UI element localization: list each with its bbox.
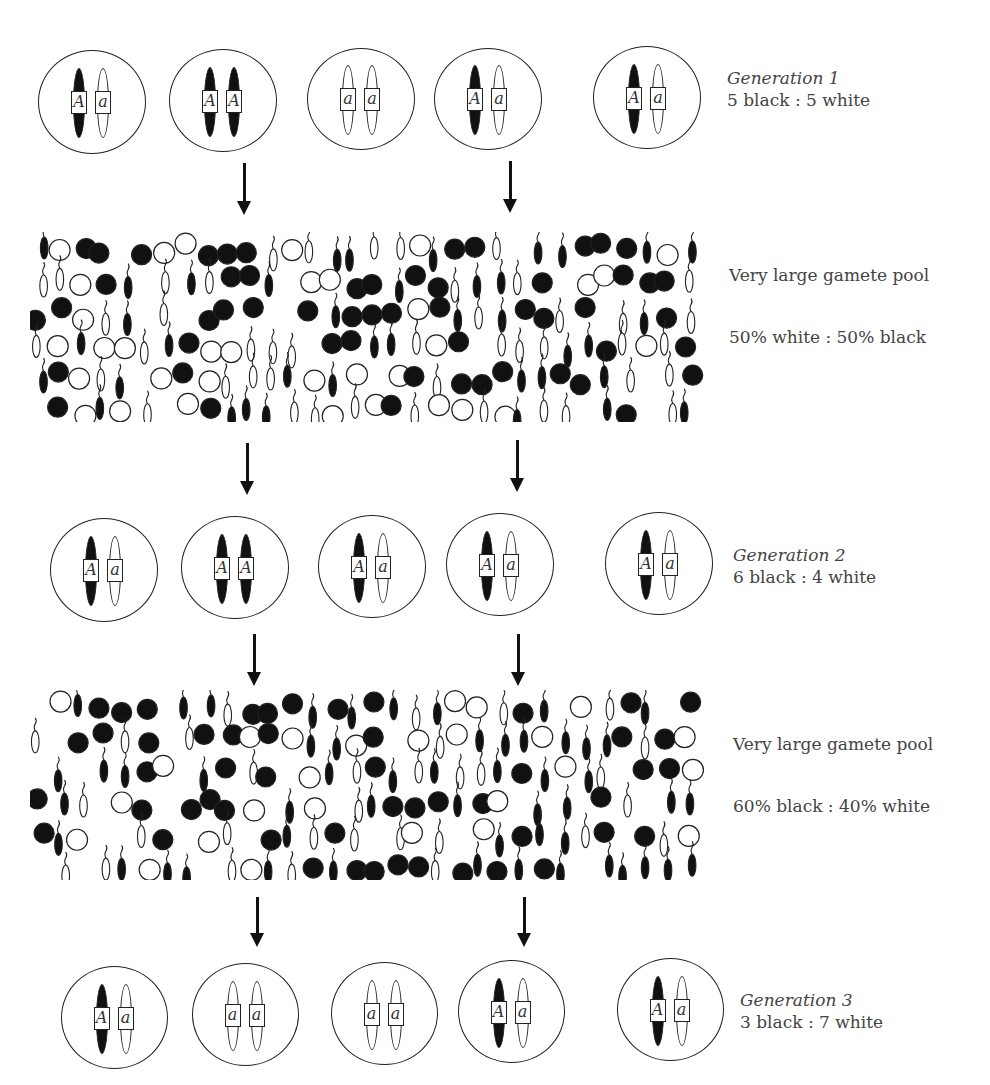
arrow-down-icon xyxy=(509,161,512,201)
allele-label: a xyxy=(95,91,111,114)
gen1-ratio: 5 black : 5 white xyxy=(727,89,870,111)
allele-label: A xyxy=(491,1001,507,1024)
allele-label: a xyxy=(375,556,391,579)
arrow-down-icon xyxy=(517,634,520,674)
gen1-cell-1: Aa xyxy=(38,50,146,154)
allele-label: a xyxy=(515,1001,531,1024)
arrow-down-icon xyxy=(256,897,259,935)
allele-label: a xyxy=(364,88,380,111)
allele-label: A xyxy=(479,554,495,577)
pool1-label: Very large gamete pool xyxy=(729,265,929,285)
gen2-cell-2: AA xyxy=(181,516,289,619)
gen3-cell-4: Aa xyxy=(458,960,565,1063)
allele-label: a xyxy=(340,88,356,111)
allele-label: a xyxy=(388,1003,404,1026)
gamete-pool-graphic xyxy=(30,690,720,880)
allele-label: A xyxy=(226,90,242,113)
arrow-down-icon xyxy=(246,443,249,483)
allele-label: a xyxy=(225,1004,241,1027)
allele-label: A xyxy=(83,559,99,582)
allele-label: A xyxy=(202,90,218,113)
allele-label: a xyxy=(364,1003,380,1026)
gamete-pool-graphic xyxy=(30,232,720,422)
gen2-ratio: 6 black : 4 white xyxy=(733,566,876,588)
gen2-cell-3: Aa xyxy=(318,515,426,618)
allele-label: A xyxy=(351,556,367,579)
arrow-down-icon xyxy=(516,440,519,480)
allele-label: a xyxy=(650,87,666,110)
gen2-cell-5: Aa xyxy=(605,512,713,615)
gen2-title: Generation 2 xyxy=(733,544,876,566)
allele-label: a xyxy=(249,1004,265,1027)
gen1-cell-2: AA xyxy=(169,49,277,152)
allele-label: a xyxy=(503,554,519,577)
gen3-cell-3: aa xyxy=(331,962,438,1065)
allele-label: A xyxy=(94,1007,110,1030)
arrow-down-icon xyxy=(523,897,526,935)
allele-label: A xyxy=(650,999,666,1022)
gen3-title: Generation 3 xyxy=(740,989,883,1011)
gen1-cell-3: aa xyxy=(307,48,415,150)
allele-label: a xyxy=(118,1007,134,1030)
arrow-down-icon xyxy=(243,163,246,203)
allele-label: A xyxy=(214,557,230,580)
gamete-pool-1 xyxy=(30,232,720,422)
gen1-cell-5: Aa xyxy=(593,46,701,149)
gen2-label: Generation 2 6 black : 4 white xyxy=(733,544,876,588)
pool1-ratio: 50% white : 50% black xyxy=(729,327,926,347)
allele-label: A xyxy=(238,557,254,580)
gen3-cell-5: Aa xyxy=(617,958,724,1061)
allele-label: a xyxy=(662,553,678,576)
gen1-label: Generation 1 5 black : 5 white xyxy=(727,67,870,111)
gen3-ratio: 3 black : 7 white xyxy=(740,1011,883,1033)
allele-label: a xyxy=(491,88,507,111)
allele-label: A xyxy=(626,87,642,110)
gen2-cell-1: Aa xyxy=(50,518,158,622)
pool2-label: Very large gamete pool xyxy=(733,734,933,754)
gamete-pool-2 xyxy=(30,690,720,880)
allele-label: A xyxy=(71,91,87,114)
gen3-cell-2: aa xyxy=(192,963,299,1066)
gen1-cell-4: Aa xyxy=(434,48,542,150)
gen2-cell-4: Aa xyxy=(446,513,554,616)
allele-label: A xyxy=(467,88,483,111)
allele-label: A xyxy=(638,553,654,576)
allele-label: a xyxy=(674,999,690,1022)
arrow-down-icon xyxy=(253,634,256,674)
gen3-label: Generation 3 3 black : 7 white xyxy=(740,989,883,1033)
allele-label: a xyxy=(107,559,123,582)
gen3-cell-1: Aa xyxy=(61,966,168,1069)
gen1-title: Generation 1 xyxy=(727,67,870,89)
pool2-ratio: 60% black : 40% white xyxy=(733,796,930,816)
